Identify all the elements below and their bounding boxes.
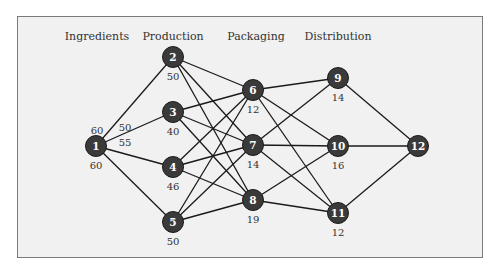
network-diagram: IngredientsProductionPackagingDistributi…: [0, 0, 500, 274]
node-number: 1: [92, 140, 99, 152]
stage-label-production: Production: [142, 30, 203, 43]
node-9[interactable]: 9: [328, 68, 349, 89]
node-value-10: 16: [332, 160, 345, 171]
edge-1-2: [96, 57, 173, 146]
value-labels: 6050404650121419141612605055: [90, 71, 345, 247]
edge-7-10: [253, 145, 338, 146]
node-number: 4: [169, 161, 176, 173]
node-value-2: 50: [167, 71, 180, 82]
edge-value-label: 60: [91, 125, 104, 136]
node-2[interactable]: 2: [163, 47, 184, 68]
node-number: 9: [334, 72, 341, 84]
stage-label-distribution: Distribution: [305, 30, 372, 43]
edge-1-5: [96, 146, 173, 222]
edge-2-6: [173, 57, 253, 90]
node-value-11: 12: [332, 227, 345, 238]
node-1[interactable]: 1: [86, 136, 107, 157]
edge-11-12: [338, 146, 418, 213]
edge-8-11: [253, 200, 338, 213]
edge-6-11: [253, 90, 338, 213]
node-7[interactable]: 7: [243, 135, 264, 156]
node-number: 6: [249, 84, 256, 96]
node-value-4: 46: [167, 181, 180, 192]
node-number: 5: [169, 216, 176, 228]
node-10[interactable]: 10: [328, 136, 349, 157]
edge-value-label: 50: [119, 122, 132, 133]
node-value-1: 60: [90, 160, 103, 171]
edge-6-10: [253, 90, 338, 146]
node-value-5: 50: [167, 236, 180, 247]
node-number: 2: [169, 51, 176, 63]
stage-label-ingredients: Ingredients: [65, 30, 130, 43]
node-4[interactable]: 4: [163, 157, 184, 178]
node-3[interactable]: 3: [163, 102, 184, 123]
node-value-6: 12: [247, 104, 260, 115]
node-12[interactable]: 12: [408, 136, 429, 157]
edge-7-11: [253, 145, 338, 213]
edge-8-10: [253, 146, 338, 200]
node-6[interactable]: 6: [243, 80, 264, 101]
node-number: 10: [331, 140, 346, 152]
edge-1-3: [96, 112, 173, 146]
edge-value-label: 55: [119, 137, 132, 148]
node-value-9: 14: [332, 92, 345, 103]
node-number: 3: [169, 106, 176, 118]
node-5[interactable]: 5: [163, 212, 184, 233]
node-number: 7: [249, 139, 256, 151]
node-value-7: 14: [247, 159, 260, 170]
node-11[interactable]: 11: [328, 203, 349, 224]
node-number: 8: [249, 194, 256, 206]
nodes: 123456789101112: [86, 47, 429, 233]
stage-label-packaging: Packaging: [227, 30, 285, 43]
edge-9-12: [338, 78, 418, 146]
node-number: 12: [411, 140, 426, 152]
node-number: 11: [331, 207, 346, 219]
stage-labels: IngredientsProductionPackagingDistributi…: [65, 30, 372, 43]
node-value-3: 40: [167, 126, 180, 137]
node-8[interactable]: 8: [243, 190, 264, 211]
node-value-8: 19: [247, 214, 260, 225]
